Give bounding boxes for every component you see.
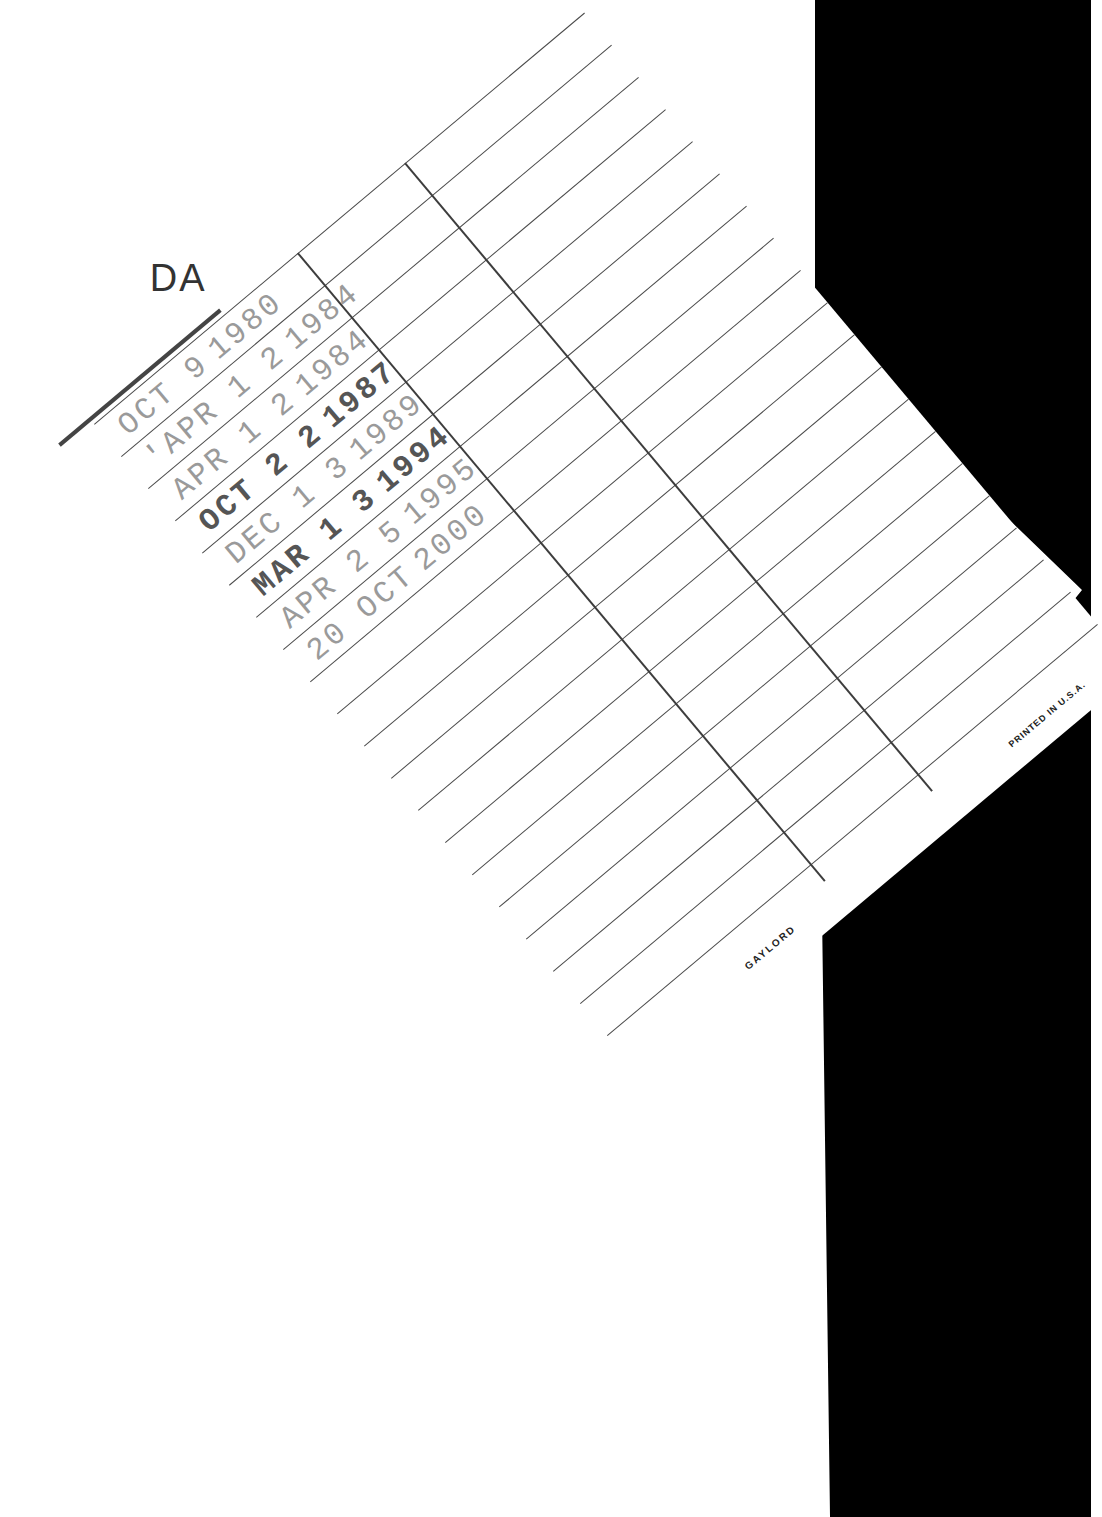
card-header: DA	[150, 257, 207, 300]
